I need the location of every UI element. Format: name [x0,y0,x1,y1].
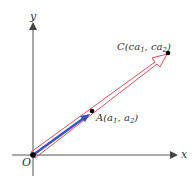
y-axis-label: y [29,10,37,23]
x-axis-label: x [181,148,188,161]
point-a-label: A(a1, a2) [95,112,138,125]
origin-point [30,152,36,158]
point-c-label: C(ca1, ca2) [117,41,171,54]
vector-a-arrow [33,114,90,155]
point-a [90,109,95,114]
origin-label: O [22,156,31,169]
vector-diagram: y x O A(a1, a2) C(ca1, ca2) [0,0,195,185]
